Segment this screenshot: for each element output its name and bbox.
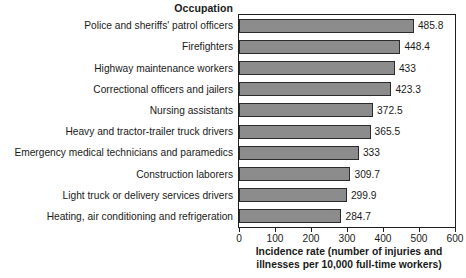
bar-value-label: 423.3: [395, 84, 421, 95]
category-label: Nursing assistants: [150, 105, 233, 116]
bar: [239, 40, 400, 54]
category-label: Firefighters: [182, 41, 233, 52]
x-axis-tick: [455, 228, 456, 232]
x-axis-tick-label: 100: [267, 233, 284, 244]
x-axis-tick-label: 400: [375, 233, 392, 244]
bar: [239, 103, 373, 117]
bar: [239, 188, 347, 202]
category-label: Emergency medical technicians and parame…: [14, 147, 233, 158]
category-label: Correctional officers and jailers: [93, 84, 233, 95]
category-label: Heavy and tractor-trailer truck drivers: [65, 126, 233, 137]
bar: [239, 146, 359, 160]
category-label-column: Occupation Police and sheriffs' patrol o…: [0, 0, 234, 234]
bar-value-label: 333: [363, 147, 380, 158]
x-axis-tick: [239, 228, 240, 232]
plot-area: 485.8448.4433423.3372.5365.5333309.7299.…: [238, 14, 456, 228]
x-axis-title-line-1: Incidence rate (number of injuries and: [238, 246, 460, 259]
bar-value-label: 448.4: [404, 41, 430, 52]
bar: [239, 82, 391, 96]
x-axis-tick: [311, 228, 312, 232]
bar: [239, 61, 395, 75]
category-label: Light truck or delivery services drivers: [63, 190, 233, 201]
x-axis-tick-label: 500: [411, 233, 428, 244]
bar-value-label: 309.7: [354, 169, 380, 180]
x-axis: 0100200300400500600: [238, 228, 456, 229]
x-axis-tick-label: 200: [303, 233, 320, 244]
x-axis-tick: [419, 228, 420, 232]
x-axis-tick: [383, 228, 384, 232]
category-axis-title: Occupation: [174, 2, 233, 14]
category-label: Construction laborers: [136, 169, 233, 180]
bar-value-label: 284.7: [345, 211, 371, 222]
category-label: Heating, air conditioning and refrigerat…: [47, 211, 233, 222]
x-axis-tick: [347, 228, 348, 232]
bar: [239, 125, 371, 139]
bar-chart: Occupation Police and sheriffs' patrol o…: [0, 0, 466, 278]
bar: [239, 209, 341, 223]
x-axis-title: Incidence rate (number of injuries and i…: [238, 246, 460, 271]
x-axis-tick-label: 300: [339, 233, 356, 244]
bar: [239, 19, 414, 33]
bar: [239, 167, 350, 181]
bar-value-label: 372.5: [377, 105, 403, 116]
x-axis-tick-label: 0: [236, 233, 242, 244]
bar-value-label: 365.5: [375, 126, 401, 137]
x-axis-title-line-2: illnesses per 10,000 full-time workers): [238, 259, 460, 272]
category-label: Highway maintenance workers: [94, 63, 233, 74]
category-label: Police and sheriffs' patrol officers: [84, 20, 233, 31]
bars-layer: 485.8448.4433423.3372.5365.5333309.7299.…: [239, 15, 455, 227]
bar-value-label: 433: [399, 63, 416, 74]
bar-value-label: 299.9: [351, 190, 377, 201]
bar-value-label: 485.8: [418, 20, 444, 31]
x-axis-tick: [275, 228, 276, 232]
x-axis-tick-label: 600: [447, 233, 464, 244]
